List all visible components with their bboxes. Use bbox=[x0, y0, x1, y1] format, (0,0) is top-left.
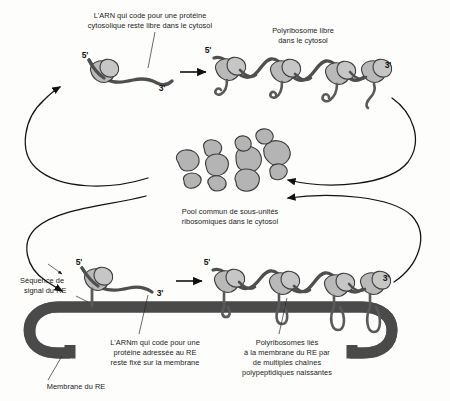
pool-subunit-10 bbox=[183, 173, 201, 188]
pool-subunit-5 bbox=[235, 136, 251, 151]
ribosome-small-subunit bbox=[94, 267, 113, 285]
caption-signal-sequence-line1: Séquence de bbox=[20, 276, 64, 285]
caption-er-mrna-line1: L'ARNm qui code pour une bbox=[110, 338, 200, 347]
pool-subunit-9 bbox=[208, 176, 226, 191]
caption-signal-sequence-line2: signal du RE bbox=[24, 286, 67, 295]
caption-free-mrna-line2: cytosolique reste libre dans le cytosol bbox=[88, 21, 213, 30]
prime-label-bottom-poly-3: 3' bbox=[383, 273, 390, 283]
caption-free-mrna-line1: L'ARN qui code pour une protéine bbox=[94, 11, 207, 20]
prime-label-bottom-single-5: 5' bbox=[76, 257, 83, 267]
pool-subunit-3 bbox=[206, 154, 229, 176]
pool-subunit-8 bbox=[235, 169, 259, 191]
pool-subunit-7 bbox=[270, 164, 287, 180]
prime-label-top-single-3: 3' bbox=[159, 83, 166, 93]
caption-pool-line2: ribosomiques dans le cytosol bbox=[182, 217, 279, 226]
caption-membrane-line1: Membrane du RE bbox=[47, 382, 106, 391]
diagram-canvas: L'ARN qui code pour une protéine cytosol… bbox=[0, 0, 450, 401]
prime-label-top-poly-5: 5' bbox=[205, 45, 212, 55]
caption-pool-line1: Pool commun de sous-unités bbox=[182, 207, 279, 216]
caption-er-mrna-line2: protéine adressée au RE bbox=[114, 348, 197, 357]
prime-label-top-poly-3: 3' bbox=[385, 60, 392, 70]
caption-free-polyribosome-line1: Polyribosome libre bbox=[272, 26, 334, 35]
ribosome-small-subunit bbox=[281, 271, 300, 289]
prime-label-bottom-poly-5: 5' bbox=[204, 257, 211, 267]
ribosome-small-subunit bbox=[282, 59, 301, 77]
caption-free-polyribosome: Polyribosome libre dans le cytosol bbox=[272, 26, 334, 45]
prime-label-top-single-5: 5' bbox=[82, 50, 89, 60]
caption-pool: Pool commun de sous-unités ribosomiques … bbox=[182, 207, 279, 226]
caption-free-polyribosome-line2: dans le cytosol bbox=[278, 36, 328, 45]
ribosome-cycle-diagram: L'ARN qui code pour une protéine cytosol… bbox=[0, 0, 450, 401]
pool-subunit-11 bbox=[256, 129, 273, 144]
caption-bound-polyribosomes-line3: de multiples chaînes bbox=[253, 358, 322, 367]
caption-bound-polyribosomes-line4: polypeptidiques naissantes bbox=[242, 368, 332, 377]
caption-bound-polyribosomes-line2: à la membrane du RE par bbox=[244, 348, 330, 357]
caption-er-mrna-line3: reste fixé sur la membrane bbox=[111, 358, 200, 367]
caption-bound-polyribosomes-line1: Polyribosomes liés bbox=[256, 338, 319, 347]
prime-label-bottom-single-3: 3' bbox=[157, 288, 164, 298]
ribosome-small-subunit bbox=[100, 59, 119, 77]
